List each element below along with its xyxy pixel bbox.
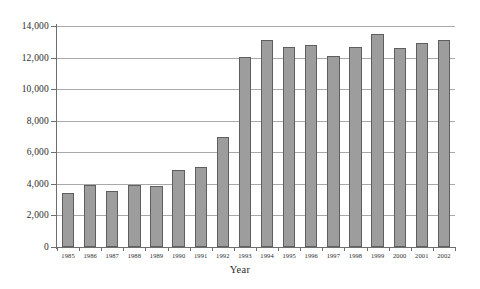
x-axis-tick-label: 1985 xyxy=(57,251,79,260)
y-axis-tick-label: 8,000 xyxy=(1,116,49,126)
x-axis-tick-label: 1987 xyxy=(101,251,123,260)
y-axis-tick-label: 14,000 xyxy=(1,21,49,31)
bar xyxy=(62,193,74,247)
y-axis-tick xyxy=(51,247,57,248)
x-axis-tick-label: 2000 xyxy=(389,251,411,260)
y-axis-tick xyxy=(51,184,57,185)
bar xyxy=(305,45,317,247)
y-axis-tick xyxy=(51,152,57,153)
x-axis-tick-label: 2001 xyxy=(411,251,433,260)
x-axis-tick-label: 1986 xyxy=(79,251,101,260)
bar xyxy=(349,47,361,247)
bar xyxy=(371,34,383,247)
bar xyxy=(438,40,450,247)
x-axis-tick-label: 1994 xyxy=(256,251,278,260)
x-axis-tick-label: 1988 xyxy=(123,251,145,260)
y-axis-tick-label: 4,000 xyxy=(1,179,49,189)
y-axis-tick xyxy=(51,121,57,122)
x-axis-tick-label: 1991 xyxy=(190,251,212,260)
bar xyxy=(84,185,96,247)
y-axis-tick-label: 2,000 xyxy=(1,210,49,220)
y-axis-tick xyxy=(51,215,57,216)
y-axis-tick-label: 0 xyxy=(1,242,49,252)
x-axis-tick-label: 2002 xyxy=(433,251,455,260)
bars-group xyxy=(57,26,455,247)
x-axis-title: Year xyxy=(0,264,480,275)
bar xyxy=(217,137,229,248)
bar xyxy=(150,186,162,247)
bar xyxy=(394,48,406,247)
bar xyxy=(327,56,339,247)
y-axis-tick xyxy=(51,58,57,59)
y-axis-labels: 02,0004,0006,0008,00010,00012,00014,000 xyxy=(0,0,49,289)
x-axis-labels: 1985198619871988198919901991199219931994… xyxy=(57,251,457,263)
x-axis-tick-label: 1995 xyxy=(278,251,300,260)
y-axis-tick-label: 12,000 xyxy=(1,53,49,63)
x-axis-tick-label: 1990 xyxy=(168,251,190,260)
bar xyxy=(283,47,295,247)
bar xyxy=(172,170,184,247)
bar xyxy=(416,43,428,247)
y-axis-tick xyxy=(51,26,57,27)
bar xyxy=(106,191,118,247)
x-axis-tick-label: 1992 xyxy=(212,251,234,260)
x-axis-tick-label: 1997 xyxy=(322,251,344,260)
x-axis-tick-label: 1996 xyxy=(300,251,322,260)
y-axis-tick xyxy=(51,89,57,90)
y-axis-tick-label: 6,000 xyxy=(1,147,49,157)
bar xyxy=(128,185,140,247)
x-axis-tick-label: 1989 xyxy=(145,251,167,260)
y-axis-tick-label: 10,000 xyxy=(1,84,49,94)
x-axis-tick-label: 1998 xyxy=(344,251,366,260)
bar xyxy=(239,57,251,247)
bar xyxy=(195,167,207,248)
bar xyxy=(261,40,273,247)
bar-chart: 02,0004,0006,0008,00010,00012,00014,000 … xyxy=(0,0,480,289)
x-axis-tick-label: 1999 xyxy=(367,251,389,260)
x-axis-tick-label: 1993 xyxy=(234,251,256,260)
